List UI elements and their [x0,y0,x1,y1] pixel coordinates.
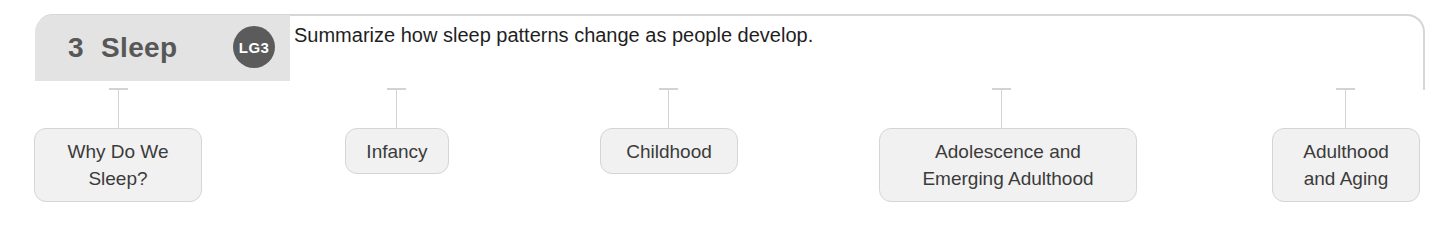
topic-box[interactable]: Adolescence and Emerging Adulthood [879,128,1137,202]
topic-box[interactable]: Childhood [600,128,738,174]
connector-tick-1 [109,88,128,90]
chapter-number: 3 [68,32,84,64]
connector-tick-2 [387,88,406,90]
connector-tick-4 [992,88,1011,90]
topic-label: Childhood [626,138,712,165]
topic-label: Infancy [366,138,427,165]
topic-box[interactable]: Why Do We Sleep? [34,128,202,202]
connector-line-2 [396,88,397,128]
learning-goal-text: Summarize how sleep patterns change as p… [294,22,813,48]
connector-line-5 [1345,88,1346,128]
topic-box[interactable]: Infancy [345,128,449,174]
connector-line-4 [1001,88,1002,128]
topic-label: Adolescence and Emerging Adulthood [922,138,1093,192]
topic-box[interactable]: Adulthood and Aging [1272,128,1420,202]
chapter-title: Sleep [101,32,177,64]
topic-label: Adulthood and Aging [1303,138,1389,192]
learning-goal-outline: 3 Sleep LG3 Summarize how sleep patterns… [0,0,1449,229]
learning-goal-badge: LG3 [233,26,275,68]
connector-line-1 [118,88,119,128]
connector-tick-3 [659,88,678,90]
connector-line-3 [668,88,669,128]
connector-tick-5 [1336,88,1355,90]
topic-label: Why Do We Sleep? [67,138,168,192]
